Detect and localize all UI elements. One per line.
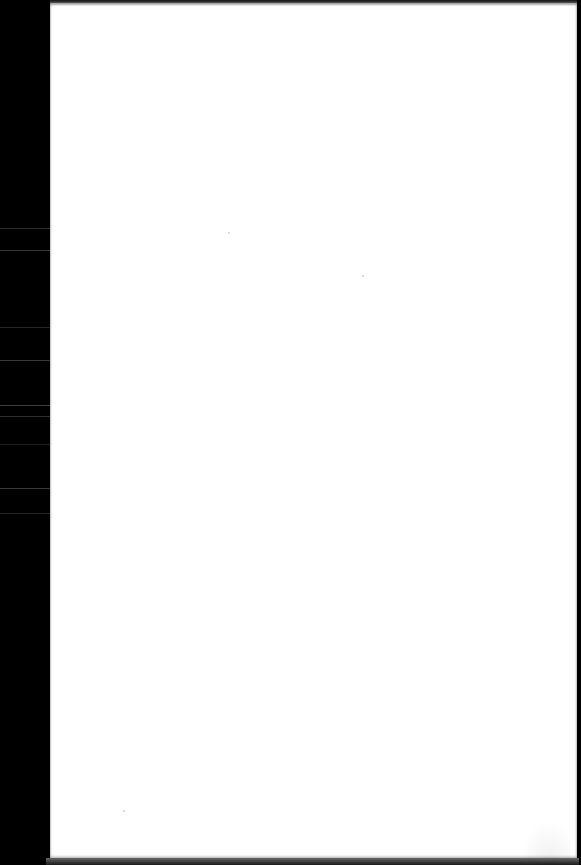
scanner-streaks: [0, 0, 50, 865]
paper-corner-shade: [520, 820, 570, 860]
dust-speck: [123, 810, 125, 812]
blank-paper-page: [50, 3, 577, 860]
dust-speck: [362, 275, 364, 277]
dust-speck: [228, 232, 230, 234]
paper-bottom-edge: [46, 858, 579, 865]
